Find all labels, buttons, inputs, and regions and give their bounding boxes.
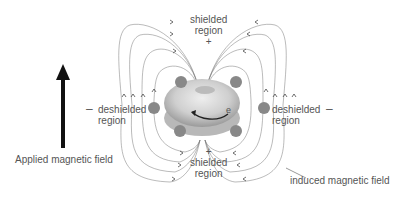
induced-field-label: induced magnetic field [290,175,390,186]
bottom-shielded-label: + shielded region [190,146,227,179]
right-minus-sign: – [326,104,333,115]
applied-field-arrow [56,64,70,148]
applied-field-label: Applied magnetic field [15,154,113,165]
top-shielded-label: shielded region + [190,14,227,47]
electron-label: e [226,105,231,116]
right-deshielded-label: deshielded region [272,104,320,126]
left-deshielded-label: deshielded region [98,104,146,126]
left-minus-sign: – [86,104,93,115]
